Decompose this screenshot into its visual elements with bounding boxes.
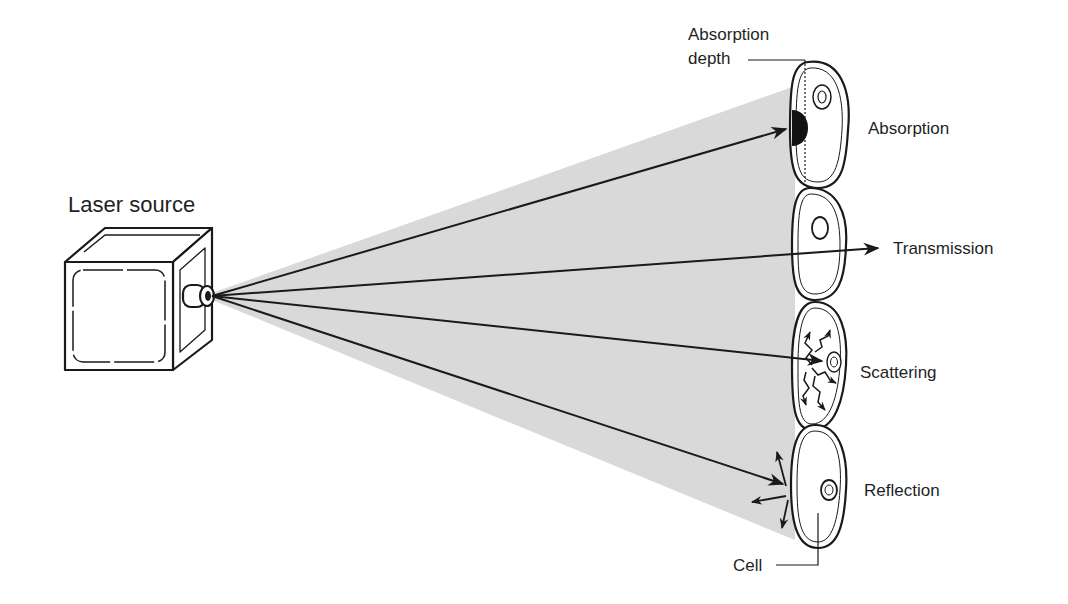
- cell-scattering: [792, 302, 846, 430]
- cell-label: Cell: [733, 556, 762, 575]
- cell-absorption: [790, 60, 849, 188]
- laser-source-label: Laser source: [68, 192, 195, 217]
- scattering-label: Scattering: [860, 363, 937, 382]
- cell-transmission: [792, 188, 846, 300]
- laser-beam-cone: [212, 86, 795, 540]
- absorption-label: Absorption: [868, 119, 949, 138]
- laser-tissue-interaction-diagram: Laser source: [0, 0, 1068, 604]
- transmission-label: Transmission: [893, 239, 993, 258]
- absorption-depth-label-line1: Absorption: [688, 25, 769, 44]
- laser-source-device: [65, 228, 214, 370]
- cell-reflection: [791, 425, 846, 548]
- reflection-label: Reflection: [864, 481, 940, 500]
- absorption-depth-label-line2: depth: [688, 49, 731, 68]
